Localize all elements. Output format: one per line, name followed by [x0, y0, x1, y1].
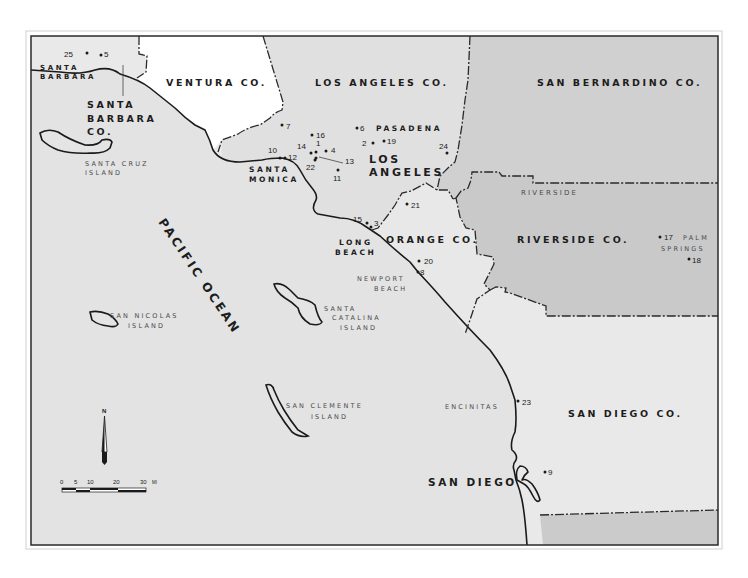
site-label-15: 15	[353, 215, 362, 224]
santa-catalina-island-label-2: CATALINA	[332, 314, 381, 322]
newport-beach-label-1: NEWPORT	[357, 275, 405, 283]
site-label-14: 14	[297, 142, 306, 151]
site-marker-24	[446, 152, 449, 155]
site-label-2: 2	[362, 139, 367, 148]
site-marker-6	[356, 127, 359, 130]
site-label-23: 23	[522, 398, 531, 407]
site-label-6: 6	[360, 124, 365, 133]
santa-barbara-county-label-2: BARBARA	[87, 113, 156, 124]
long-beach-label-1: LONG	[339, 238, 373, 247]
svg-text:20: 20	[113, 479, 120, 485]
svg-text:30: 30	[140, 479, 147, 485]
palm-springs-label-1: PALM	[683, 234, 709, 242]
site-label-1: 1	[316, 139, 321, 148]
san-clemente-island-label-2: ISLAND	[311, 413, 348, 421]
los-angeles-city-label-1: LOS	[369, 153, 401, 166]
site-label-22: 22	[306, 163, 315, 172]
santa-monica-label-2: MONICA	[249, 175, 299, 184]
santa-catalina-island-label-1: SANTA	[324, 305, 356, 313]
site-marker-4	[325, 150, 328, 153]
los-angeles-county-label: LOS ANGELES CO.	[315, 77, 449, 88]
site-label-18: 18	[692, 256, 701, 265]
site-marker-22	[314, 159, 317, 162]
site-marker-9	[544, 471, 547, 474]
site-label-16: 16	[316, 131, 325, 140]
orange-county-label: ORANGE CO.	[386, 234, 479, 245]
site-marker-12	[284, 157, 287, 160]
site-label-13: 13	[345, 157, 354, 166]
site-label-11: 11	[333, 174, 342, 183]
ventura-county-label: VENTURA CO.	[166, 77, 267, 88]
site-label-9: 9	[548, 468, 553, 477]
santa-cruz-island-label-1: SANTA CRUZ	[85, 160, 149, 168]
site-marker-10	[279, 157, 282, 160]
site-marker-1	[315, 151, 318, 154]
santa-barbara-county-label-3: CO.	[87, 126, 113, 137]
san-diego-county-label: SAN DIEGO CO.	[568, 408, 683, 419]
site-marker-17	[659, 236, 662, 239]
site-label-5: 5	[104, 50, 109, 59]
site-label-21: 21	[411, 201, 420, 210]
site-marker-20	[418, 260, 421, 263]
site-marker-11	[337, 169, 340, 172]
site-marker-14	[310, 152, 313, 155]
site-label-4: 4	[331, 146, 336, 155]
riverside-city-label: RIVERSIDE	[521, 189, 578, 197]
site-marker-7	[281, 124, 284, 127]
svg-text:MI: MI	[152, 480, 157, 485]
site-label-8: 8	[420, 268, 425, 277]
site-marker-19	[383, 140, 386, 143]
site-marker-5	[100, 54, 103, 57]
santa-catalina-island-label-3: ISLAND	[340, 324, 377, 332]
site-marker-15	[366, 222, 369, 225]
north-arrow-label: N	[102, 408, 106, 414]
san-bernardino-county-label: SAN BERNARDINO CO.	[537, 77, 702, 88]
los-angeles-city-label-2: ANGELES	[369, 166, 444, 179]
map-canvas: VENTURA CO. LOS ANGELES CO. SAN BERNARDI…	[0, 0, 748, 578]
santa-barbara-city-label-2: BARBARA	[40, 73, 96, 81]
site-label-10: 10	[268, 146, 277, 155]
site-marker-3	[370, 226, 373, 229]
san-nicolas-island-label-1: SAN NICOLAS	[110, 312, 179, 320]
santa-cruz-island-label-2: ISLAND	[85, 169, 122, 177]
san-nicolas-island-label-2: ISLAND	[128, 322, 165, 330]
site-label-7: 7	[286, 122, 291, 131]
riverside-county-label: RIVERSIDE CO.	[517, 234, 629, 245]
site-marker-16	[311, 134, 314, 137]
site-label-19: 19	[387, 137, 396, 146]
pasadena-label: PASADENA	[376, 124, 442, 133]
san-clemente-island-label-1: SAN CLEMENTE	[286, 402, 363, 410]
site-label-24: 24	[439, 142, 448, 151]
site-label-25: 25	[64, 50, 73, 59]
mexico-region	[540, 510, 718, 545]
site-marker-23	[517, 400, 520, 403]
site-label-12: 12	[288, 153, 297, 162]
encinitas-label: ENCINITAS	[445, 403, 499, 411]
site-marker-25	[86, 52, 89, 55]
palm-springs-label-2: SPRINGS	[661, 245, 705, 253]
long-beach-label-2: BEACH	[335, 248, 376, 257]
site-label-17: 17	[664, 233, 673, 242]
santa-barbara-county-label-1: SANTA	[87, 99, 135, 110]
site-marker-18	[688, 258, 691, 261]
site-marker-2	[372, 142, 375, 145]
site-label-20: 20	[424, 257, 433, 266]
svg-text:10: 10	[87, 479, 94, 485]
site-label-3: 3	[374, 219, 379, 228]
newport-beach-label-2: BEACH	[374, 285, 407, 293]
santa-barbara-city-label-1: SANTA	[40, 64, 79, 72]
san-diego-city-label: SAN DIEGO	[428, 476, 517, 488]
site-marker-21	[406, 203, 409, 206]
santa-monica-label-1: SANTA	[249, 165, 290, 174]
